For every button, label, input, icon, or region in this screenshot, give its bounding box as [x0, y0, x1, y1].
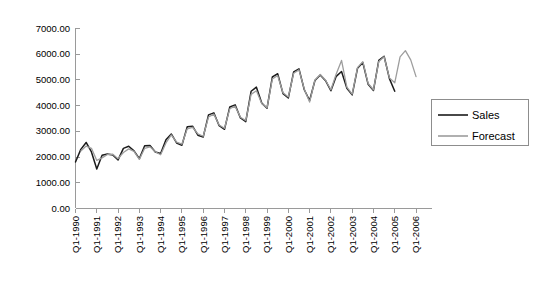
y-axis-tick-label: 7000.00 [36, 23, 70, 34]
chart-canvas: 0.001000.002000.003000.004000.005000.006… [0, 0, 537, 288]
x-axis-tick-label: Q1-2005 [389, 216, 400, 253]
y-axis-tick-label: 0.00 [52, 203, 71, 214]
y-axis-tick-label: 4000.00 [36, 100, 70, 111]
x-axis-tick-label: Q1-2001 [304, 216, 315, 253]
y-axis-tick-label: 5000.00 [36, 74, 70, 85]
chart-legend: SalesForecast [432, 100, 529, 146]
x-axis-tick-label: Q1-1991 [91, 216, 102, 253]
x-axis-tick-labels: Q1-1990Q1-1991Q1-1992Q1-1993Q1-1994Q1-19… [70, 216, 422, 253]
x-axis-tick-label: Q1-2002 [325, 216, 336, 253]
x-axis-tick-marks [76, 209, 417, 213]
series-line-forecast [81, 51, 416, 161]
x-axis-tick-label: Q1-1995 [176, 216, 187, 253]
y-axis-tick-labels: 0.001000.002000.003000.004000.005000.006… [36, 23, 70, 214]
y-axis-tick-marks [76, 29, 80, 209]
x-axis-tick-label: Q1-1999 [261, 216, 272, 253]
y-axis-tick-label: 1000.00 [36, 177, 70, 188]
data-series-group [76, 51, 417, 169]
legend-label-forecast: Forecast [472, 130, 515, 142]
x-axis-tick-label: Q1-1990 [70, 216, 81, 253]
legend-label-sales: Sales [472, 109, 500, 121]
y-axis-tick-label: 3000.00 [36, 125, 70, 136]
sales-forecast-chart: 0.001000.002000.003000.004000.005000.006… [0, 0, 537, 288]
x-axis-tick-label: Q1-1994 [155, 216, 166, 253]
x-axis-tick-label: Q1-2006 [410, 216, 421, 253]
x-axis-tick-label: Q1-1997 [219, 216, 230, 253]
x-axis-tick-label: Q1-1998 [240, 216, 251, 253]
x-axis-tick-label: Q1-1996 [198, 216, 209, 253]
x-axis-tick-label: Q1-2003 [347, 216, 358, 253]
x-axis-tick-label: Q1-1992 [112, 216, 123, 253]
x-axis-tick-label: Q1-2004 [368, 216, 379, 253]
y-axis-tick-label: 6000.00 [36, 48, 70, 59]
x-axis-tick-label: Q1-1993 [134, 216, 145, 253]
y-axis-tick-label: 2000.00 [36, 151, 70, 162]
x-axis-tick-label: Q1-2000 [283, 216, 294, 253]
